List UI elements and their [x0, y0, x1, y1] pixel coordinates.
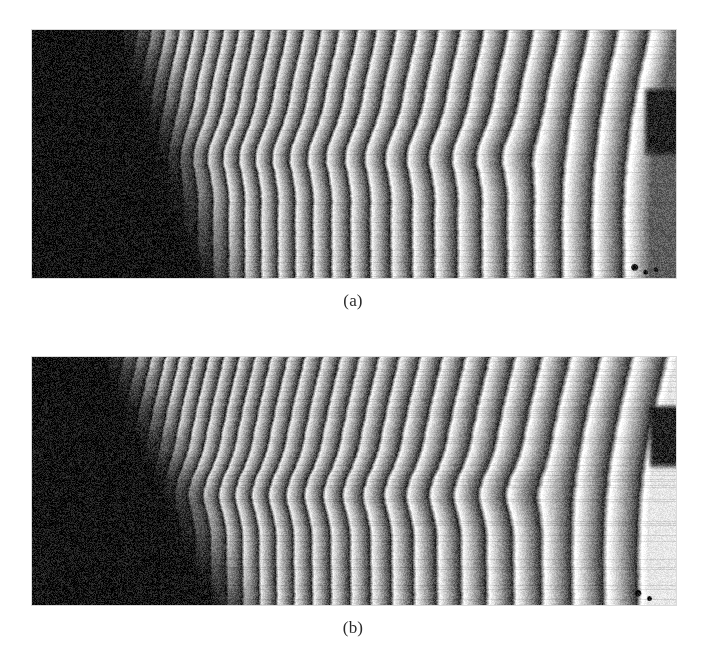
- panel-caption-b: (b): [0, 619, 706, 636]
- panel-caption-a: (a): [0, 292, 706, 309]
- micrograph-image-b: [32, 357, 676, 605]
- micrograph-canvas-a: [32, 30, 676, 278]
- micrograph-image-a: [32, 30, 676, 278]
- figure-root: (a) (b): [0, 0, 706, 664]
- micrograph-canvas-b: [32, 357, 676, 605]
